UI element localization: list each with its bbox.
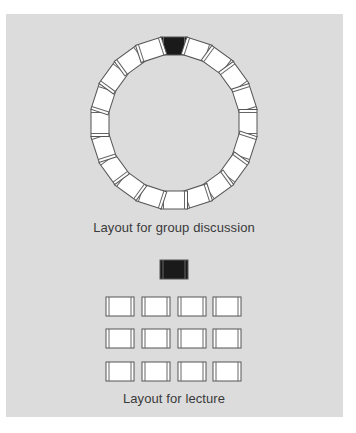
lecturer-chair bbox=[160, 260, 188, 279]
audience-chair bbox=[213, 362, 241, 381]
lecture-caption: Layout for lecture bbox=[0, 391, 348, 406]
audience-chair bbox=[178, 329, 206, 348]
lecture-layout bbox=[106, 260, 241, 381]
audience-chair bbox=[106, 329, 134, 348]
audience-chair bbox=[106, 362, 134, 381]
audience-chair bbox=[106, 297, 134, 316]
audience-chair bbox=[178, 362, 206, 381]
seating-diagram bbox=[0, 0, 356, 433]
audience-chair bbox=[142, 297, 170, 316]
group-discussion-caption: Layout for group discussion bbox=[0, 220, 348, 235]
audience-chair bbox=[142, 362, 170, 381]
audience-chair bbox=[178, 297, 206, 316]
group-discussion-ring bbox=[91, 37, 257, 209]
audience-chair bbox=[142, 329, 170, 348]
audience-chair bbox=[213, 297, 241, 316]
audience-chair bbox=[213, 329, 241, 348]
discussion-chair bbox=[136, 37, 167, 62]
